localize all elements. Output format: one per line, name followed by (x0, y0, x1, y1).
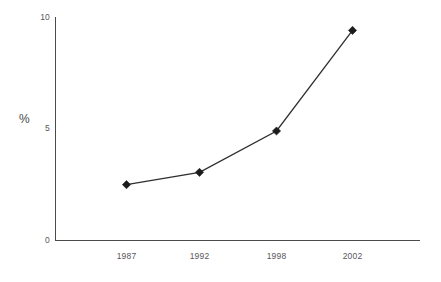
x-axis-tick-label: 1987 (97, 252, 157, 261)
y-axis-title: % (19, 113, 30, 125)
y-axis-tick-label: 0 (20, 236, 50, 245)
line-chart: 0510 1987199219982002 % (0, 0, 441, 282)
x-axis-tick-label: 1992 (170, 252, 230, 261)
x-axis-tick-label: 2002 (323, 252, 383, 261)
chart-background (0, 0, 441, 282)
chart-plot-area (0, 0, 441, 282)
x-axis-tick-label: 1998 (247, 252, 307, 261)
y-axis-tick-label: 10 (20, 13, 50, 22)
